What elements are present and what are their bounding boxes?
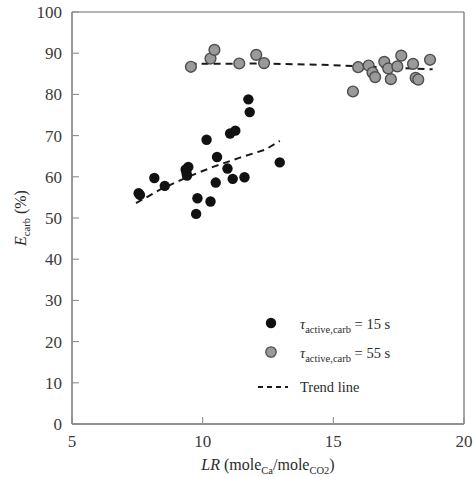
data-point-tau-15s xyxy=(192,193,202,203)
data-point-tau-55s xyxy=(209,45,220,56)
chart-figure: 0102030405060708090100 5101520 LR (moleC… xyxy=(0,0,474,477)
y-tick-label: 20 xyxy=(45,333,62,352)
data-point-tau-55s xyxy=(413,74,424,85)
data-point-tau-15s xyxy=(243,94,253,104)
y-tick-label: 70 xyxy=(45,127,62,146)
legend-gray-dot-marker-icon xyxy=(266,347,276,357)
data-point-tau-15s xyxy=(228,174,238,184)
data-point-tau-55s xyxy=(408,59,419,70)
legend-label-trend-line: Trend line xyxy=(300,379,359,395)
x-axis-title-close: ) xyxy=(329,456,334,474)
data-point-tau-55s xyxy=(425,54,436,65)
data-point-tau-55s xyxy=(259,58,270,69)
legend-black-dot-marker-icon xyxy=(266,318,276,328)
data-point-tau-55s xyxy=(353,62,364,73)
data-point-tau-15s xyxy=(222,163,232,173)
data-point-tau-15s xyxy=(160,181,170,191)
data-point-tau-55s xyxy=(234,58,245,69)
data-point-tau-15s xyxy=(230,125,240,135)
y-tick-label: 80 xyxy=(45,85,62,104)
y-tick-label: 50 xyxy=(45,209,62,228)
data-point-tau-55s xyxy=(385,74,396,85)
data-point-tau-15s xyxy=(211,177,221,187)
x-axis-title-open: (mole xyxy=(220,456,261,474)
y-tick-label: 30 xyxy=(45,291,62,310)
data-point-tau-55s xyxy=(396,50,407,61)
y-axis-title-sub-carb: carb xyxy=(21,218,32,236)
y-axis-title-e: E xyxy=(12,236,29,247)
legend-tau-eq-2: = 55 s xyxy=(351,345,391,361)
x-tick-label: 10 xyxy=(194,432,211,451)
x-axis-title-sub-ca: Ca xyxy=(261,465,273,476)
data-point-tau-15s xyxy=(239,172,249,182)
data-point-tau-15s xyxy=(149,173,159,183)
data-point-tau-55s xyxy=(348,86,359,97)
x-axis-title-lr: LR xyxy=(200,456,220,473)
data-point-tau-15s xyxy=(205,196,215,206)
y-axis-title-unit: (%) xyxy=(12,190,30,218)
data-point-tau-15s xyxy=(245,107,255,117)
data-point-tau-55s xyxy=(186,61,197,72)
x-tick-label: 5 xyxy=(68,432,77,451)
y-tick-label: 10 xyxy=(45,374,62,393)
y-tick-label: 0 xyxy=(54,415,63,434)
legend-tau-sub-1: active,carb xyxy=(305,324,351,335)
data-point-tau-55s xyxy=(392,61,403,72)
y-tick-label: 90 xyxy=(45,44,62,63)
data-point-tau-15s xyxy=(183,162,193,172)
data-point-tau-15s xyxy=(191,209,201,219)
scatter-plot-svg: 0102030405060708090100 5101520 LR (moleC… xyxy=(0,0,474,477)
y-tick-label: 100 xyxy=(37,3,63,22)
data-point-tau-15s xyxy=(201,135,211,145)
data-point-tau-15s xyxy=(212,152,222,162)
legend-tau-sub-2: active,carb xyxy=(305,353,351,364)
x-axis-title-sub-co2: CO2 xyxy=(309,465,329,476)
y-tick-label: 60 xyxy=(45,168,62,187)
x-tick-label: 15 xyxy=(325,432,342,451)
data-point-tau-55s xyxy=(370,72,381,83)
data-point-tau-15s xyxy=(275,157,285,167)
x-axis-title-slash: /mole xyxy=(273,456,309,473)
chart-background xyxy=(0,0,474,477)
y-tick-label: 40 xyxy=(45,250,62,269)
legend-tau-eq-1: = 15 s xyxy=(351,316,391,332)
x-tick-label: 20 xyxy=(456,432,473,451)
data-point-tau-15s xyxy=(135,190,145,200)
